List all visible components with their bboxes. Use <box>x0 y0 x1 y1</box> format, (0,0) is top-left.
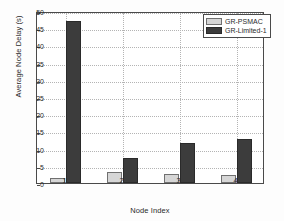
bar-chart-figure: Average Node Delay (s) 05101520253035404… <box>0 0 284 221</box>
legend-item-series-2[interactable]: GR-Limited-1 <box>206 26 267 35</box>
y-tick-label: 30 <box>14 77 44 84</box>
x-tick-label: 2 <box>110 176 134 185</box>
y-tick-label: 20 <box>14 112 44 119</box>
legend-swatch-icon-gr-limited-1 <box>206 27 222 34</box>
y-tick-label: 35 <box>14 60 44 67</box>
x-tick-label: 4 <box>224 176 248 185</box>
y-tick-label: 5 <box>14 163 44 170</box>
legend-label-series-2: GR-Limited-1 <box>225 26 267 35</box>
y-tick-label: 15 <box>14 129 44 136</box>
y-tick-label: 0 <box>14 181 44 188</box>
y-tick-label: 40 <box>14 43 44 50</box>
legend-swatch-icon-gr-psmac <box>206 18 222 25</box>
x-tick-label: 3 <box>167 176 191 185</box>
legend-item-series-1[interactable]: GR-PSMAC <box>206 17 267 26</box>
bar-gr-limited-1-node-1 <box>66 21 81 183</box>
y-tick-label: 10 <box>14 146 44 153</box>
chart-legend: GR-PSMAC GR-Limited-1 <box>203 14 271 38</box>
x-tick-label: 1 <box>53 176 77 185</box>
y-tick-label: 25 <box>14 95 44 102</box>
y-tick-label: 45 <box>14 26 44 33</box>
y-tick-label: 50 <box>14 9 44 16</box>
x-axis-title: Node Index <box>36 206 264 215</box>
legend-label-series-1: GR-PSMAC <box>225 17 263 26</box>
